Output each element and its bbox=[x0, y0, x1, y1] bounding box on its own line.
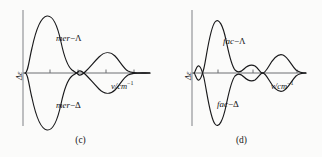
panel-d: Δε ν/cm−1 fac−Λ fac−Δ (d) bbox=[161, 0, 322, 157]
cd-spectra-figure: Δε ν/cm−1 mer−Λ mer−Δ (c) Δε ν/cm−1 fac−… bbox=[0, 0, 322, 157]
panel-c-x-axis-label-sup: −1 bbox=[127, 80, 133, 86]
panel-d-x-axis-label-main: ν/cm bbox=[271, 81, 287, 91]
panel-d-lower-curve-label-enantiomer: −Δ bbox=[228, 99, 239, 109]
panel-d-lower-curve-label: fac−Δ bbox=[217, 99, 239, 109]
panel-c-caption: (c) bbox=[0, 135, 161, 145]
panel-c-upper-curve-label-enantiomer: −Λ bbox=[70, 33, 82, 43]
panel-c-upper-curve-label: mer−Λ bbox=[56, 33, 82, 43]
panel-c-x-axis-label-main: ν/cm bbox=[111, 81, 127, 91]
panel-c-y-axis-label: Δε bbox=[14, 72, 24, 80]
panel-d-lower-curve-label-isomer: fac bbox=[217, 99, 228, 109]
panel-d-y-axis-label: Δε bbox=[183, 72, 193, 80]
panel-d-plot bbox=[161, 0, 322, 134]
panel-d-x-axis-label-sup: −1 bbox=[287, 80, 293, 86]
panel-c-lower-curve-label-isomer: mer bbox=[56, 100, 70, 110]
panel-d-curve-lambda bbox=[194, 21, 306, 81]
panel-d-curve-delta bbox=[194, 66, 306, 126]
panel-c: Δε ν/cm−1 mer−Λ mer−Δ (c) bbox=[0, 0, 161, 157]
panel-c-lower-curve-label-enantiomer: −Δ bbox=[70, 100, 81, 110]
panel-d-upper-curve-label-enantiomer: −Λ bbox=[234, 36, 246, 46]
panel-d-upper-curve-label-isomer: fac bbox=[223, 36, 234, 46]
panel-d-upper-curve-label: fac−Λ bbox=[223, 36, 246, 46]
panel-c-plot bbox=[0, 0, 161, 134]
panel-c-upper-curve-label-isomer: mer bbox=[56, 33, 70, 43]
panel-c-lower-curve-label: mer−Δ bbox=[56, 100, 81, 110]
panel-d-caption: (d) bbox=[161, 135, 322, 145]
panel-c-curve-lambda bbox=[25, 16, 150, 75]
panel-d-x-axis-label: ν/cm−1 bbox=[271, 80, 293, 91]
panel-c-x-axis-label: ν/cm−1 bbox=[111, 80, 133, 91]
